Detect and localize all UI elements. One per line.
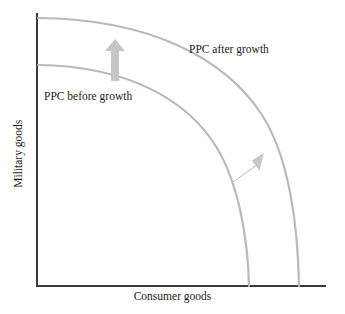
diagonal-growth-arrow — [228, 152, 271, 188]
x-axis-label: Consumer goods — [0, 291, 345, 303]
annotation-ppc-after-growth: PPC after growth — [189, 44, 269, 56]
ppc-growth-chart: PPC after growth PPC before growth Consu… — [0, 0, 345, 314]
annotation-ppc-before-growth: PPC before growth — [44, 91, 132, 103]
ppc-after-growth-curve — [38, 18, 299, 286]
y-axis-label: Military goods — [13, 104, 25, 204]
chart-canvas — [0, 0, 345, 314]
vertical-growth-arrow — [105, 39, 125, 81]
